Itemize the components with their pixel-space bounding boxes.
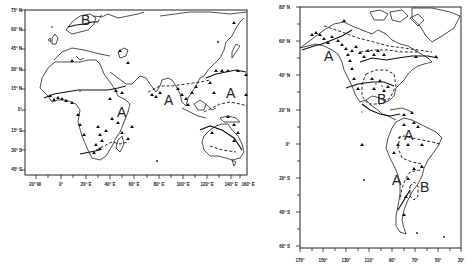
region-label-a: A [164, 93, 173, 107]
region-label-a: A [117, 105, 126, 119]
region-label-a: A [226, 86, 235, 100]
station-markers [48, 21, 248, 154]
region-label-a: A [392, 173, 401, 187]
left-map-panel: 75° N 60° N 45° N 30° N 15° N 0° 15° S 3… [0, 0, 260, 200]
region-label-b: B [420, 180, 429, 194]
region-label-a: A [324, 49, 333, 63]
region-label-a: A [404, 128, 413, 142]
region-label-b: B [81, 13, 90, 27]
right-map-panel: 80° N 60° N 40° N 20° N 0° 20° S 40° S 6… [262, 0, 472, 273]
right-map-canvas [262, 0, 472, 273]
left-map-canvas [0, 0, 260, 200]
region-label-b: B [377, 92, 386, 106]
